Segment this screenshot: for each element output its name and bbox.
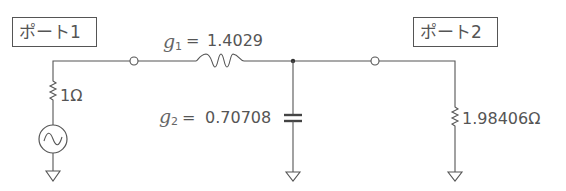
svg-text:=: = xyxy=(182,108,195,127)
capacitor-icon xyxy=(284,61,302,172)
top-wire xyxy=(53,61,455,106)
capacitor-label: g 2 = 0.70708 xyxy=(159,105,271,128)
svg-text:1: 1 xyxy=(175,40,182,53)
port2-terminal-icon xyxy=(371,57,379,65)
load-resistance-label: 1.98406Ω xyxy=(462,109,540,128)
svg-text:2: 2 xyxy=(171,115,178,128)
source-resistance-label: 1Ω xyxy=(60,86,82,105)
port1-terminal-icon xyxy=(130,57,138,65)
source-resistor-icon xyxy=(50,78,56,125)
ac-source-icon xyxy=(39,125,67,171)
load-resistor-icon xyxy=(452,106,458,172)
port1-label-box: ポート1 xyxy=(13,18,97,47)
ground-icon-middle xyxy=(286,172,300,181)
inductor-value: 1.4029 xyxy=(207,31,263,50)
inductor-label: g 1 = 1.4029 xyxy=(163,30,263,53)
ground-icon-left xyxy=(46,171,60,181)
port2-label-box: ポート2 xyxy=(414,18,498,47)
port1-label: ポート1 xyxy=(19,22,81,42)
svg-text:=: = xyxy=(186,31,199,50)
svg-text:g: g xyxy=(163,30,175,52)
port2-label: ポート2 xyxy=(420,22,482,42)
capacitor-value: 0.70708 xyxy=(205,108,271,127)
circuit-diagram: ポート1 ポート2 1Ω g 1 = 1.4029 xyxy=(0,0,566,191)
inductor-icon xyxy=(196,54,244,67)
svg-text:g: g xyxy=(159,105,171,127)
ground-icon-right xyxy=(448,172,462,181)
